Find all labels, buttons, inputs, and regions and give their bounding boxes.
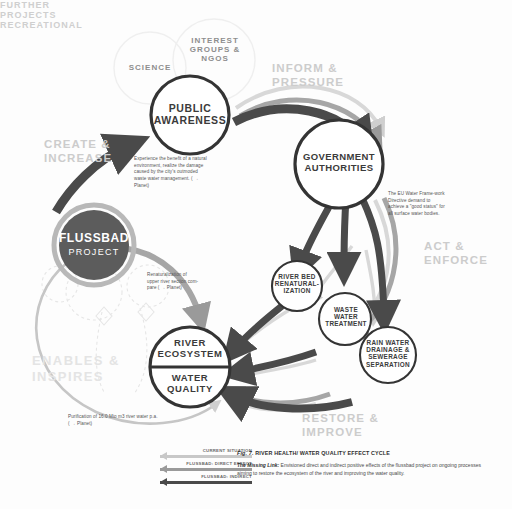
note-renaturalization: Renaturalization of upper river section … [147,272,199,292]
node-river-bed-circle [272,261,322,311]
legend-arrow-icon [160,465,167,473]
note-purification: Purification of 16.0 Mio m3 river water … [68,414,160,427]
legend-swatch-bar [160,481,252,484]
node-rain-water-circle [360,327,416,383]
caption-figure-title: RIVER HEALTH/ WATER QUALITY EFFECT CYCLE [255,450,390,456]
node-public-awareness-circle [151,76,229,154]
node-waste-water-circle [319,293,371,345]
caption-lead: The Missing Link: [237,462,279,468]
flow-enables-inspires: ENABLES & INSPIRES [32,353,144,386]
flow-restore-improve: RESTORE & IMPROVE [302,412,412,440]
flow-inform-pressure: INFORM & PRESSURE [272,62,378,90]
note-eu-directive: The EU Water Frame-work Directive demand… [388,191,448,218]
node-flussbad-subtitle: PROJECT [54,247,134,257]
legend-arrow-icon [160,478,167,486]
legend-arrow-icon [160,452,167,460]
caption-body: The Missing Link: Envisioned direct and … [237,461,485,477]
caption-title: Fig. 7. RIVER HEALTH/ WATER QUALITY EFFE… [237,450,485,456]
figure-caption: Fig. 7. RIVER HEALTH/ WATER QUALITY EFFE… [237,450,485,477]
node-flussbad-title: FLUSSBAD [54,232,134,246]
flow-act-enforce: ACT & ENFORCE [424,240,510,268]
note-public-awareness: Experience the benefit of a natural envi… [134,156,208,189]
node-government-circle [295,120,383,208]
caption-figure-number: Fig. 7. [237,450,254,456]
figure-canvas: SCIENCE INTEREST GROUPS & NGOS PUBLIC AW… [0,0,512,509]
